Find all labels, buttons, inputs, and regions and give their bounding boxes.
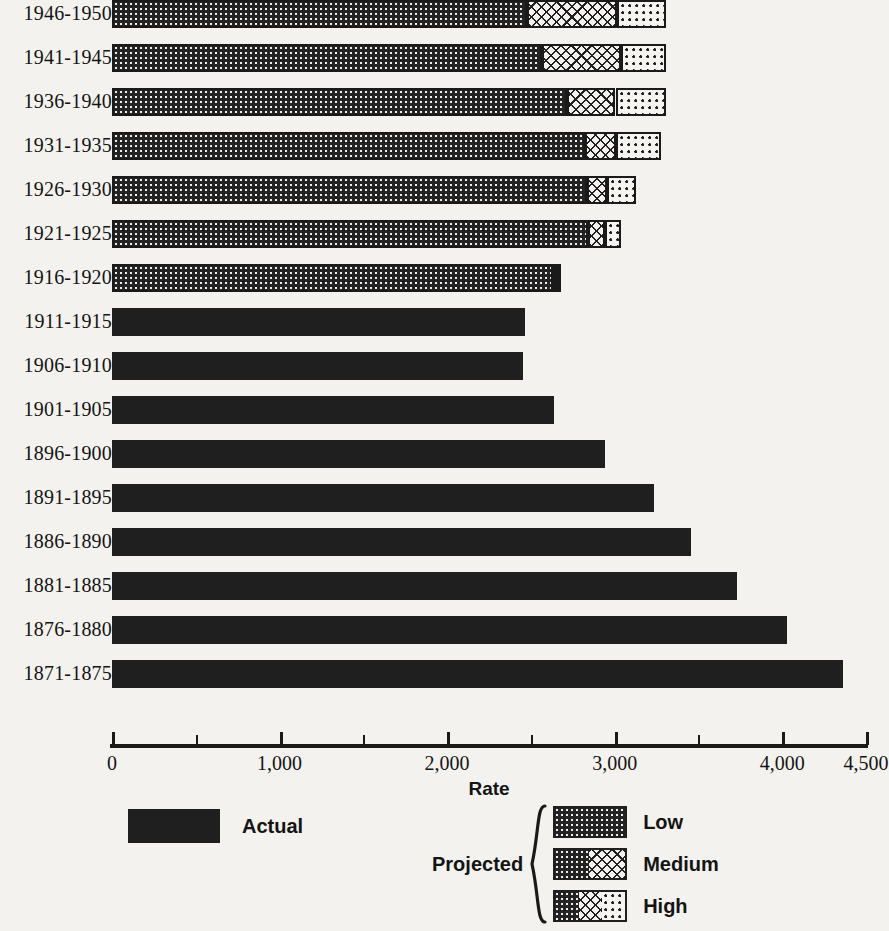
- bar-segment-low: [112, 132, 585, 160]
- bar-segment-actual: [112, 440, 605, 468]
- x-tick-minor: [363, 735, 365, 745]
- bar-segment-high: [605, 220, 620, 248]
- bar-segment-high: [616, 88, 666, 116]
- x-tick-major: [866, 732, 869, 745]
- plot-area: 1946-19501941-19451936-19401931-19351926…: [0, 0, 868, 742]
- x-tick-minor: [698, 735, 700, 745]
- category-label: 1896-1900: [24, 439, 112, 467]
- category-label: 1916-1920: [24, 263, 112, 291]
- bar-track: [112, 572, 737, 600]
- legend-item-low: Low: [553, 806, 719, 838]
- bar-track: [112, 220, 621, 248]
- bar-segment-high: [616, 132, 661, 160]
- legend-swatch-low: [553, 806, 627, 838]
- bar-segment-actual: [112, 528, 691, 556]
- bar-track: [112, 616, 787, 644]
- chart-legend: Actual Projected Low: [0, 800, 868, 931]
- legend-swatch-actual: [128, 809, 220, 843]
- bar-segment-low: [112, 0, 527, 28]
- bar-row: 1891-1895: [0, 484, 868, 512]
- bar-segment-low: [112, 88, 567, 116]
- x-axis-title: Rate: [112, 778, 866, 800]
- x-tick-label: 0: [107, 752, 117, 775]
- x-tick-minor: [196, 735, 198, 745]
- category-label: 1876-1880: [24, 615, 112, 643]
- bar-segment-actual: [112, 396, 554, 424]
- x-tick-major: [447, 732, 450, 745]
- legend-label-actual: Actual: [242, 815, 303, 838]
- bar-track: [112, 44, 666, 72]
- bar-segment-actual: [112, 572, 737, 600]
- bar-segment-medium: [587, 176, 607, 204]
- bar-row: 1931-1935: [0, 132, 868, 160]
- bar-track: [112, 660, 843, 688]
- bar-segment-high: [557, 264, 561, 292]
- bar-row: 1936-1940: [0, 88, 868, 116]
- category-label: 1891-1895: [24, 483, 112, 511]
- bar-row: 1946-1950: [0, 0, 868, 28]
- bar-segment-actual: [112, 660, 843, 688]
- x-tick-major: [112, 732, 115, 745]
- legend-projected-rows: Low Medium High: [553, 806, 719, 922]
- bar-segment-high: [607, 176, 635, 204]
- bar-segment-actual: [112, 308, 525, 336]
- bar-segment-medium: [567, 88, 616, 116]
- category-label: 1921-1925: [24, 219, 112, 247]
- legend-item-high: High: [553, 890, 719, 922]
- bar-track: [112, 264, 560, 292]
- category-label: 1886-1890: [24, 527, 112, 555]
- bar-row: 1916-1920: [0, 264, 868, 292]
- legend-group-projected: Projected Low Medium: [432, 804, 719, 924]
- bar-segment-low: [112, 220, 588, 248]
- bar-row: 1876-1880: [0, 616, 868, 644]
- legend-label-low: Low: [643, 811, 683, 834]
- legend-swatch-medium: [553, 848, 627, 880]
- bar-row: 1871-1875: [0, 660, 868, 688]
- x-tick-label: 4,000: [760, 752, 805, 775]
- x-tick-label: 2,000: [425, 752, 470, 775]
- bar-segment-low: [112, 176, 587, 204]
- bar-segment-high: [617, 0, 666, 28]
- bar-segment-actual: [112, 352, 523, 380]
- bar-track: [112, 440, 605, 468]
- x-tick-major: [280, 732, 283, 745]
- category-label: 1926-1930: [24, 175, 112, 203]
- x-tick-minor: [531, 735, 533, 745]
- bar-row: 1896-1900: [0, 440, 868, 468]
- bar-track: [112, 0, 666, 28]
- bar-segment-high: [621, 44, 666, 72]
- bar-segment-low: [112, 264, 553, 292]
- legend-label-projected: Projected: [432, 853, 523, 876]
- x-tick-label: 3,000: [592, 752, 637, 775]
- bar-segment-medium: [585, 132, 615, 160]
- category-label: 1936-1940: [24, 87, 112, 115]
- bar-segment-medium: [542, 44, 621, 72]
- category-label: 1881-1885: [24, 571, 112, 599]
- bar-segment-actual: [112, 616, 787, 644]
- bar-row: 1926-1930: [0, 176, 868, 204]
- bar-segment-medium: [588, 220, 606, 248]
- bar-track: [112, 88, 666, 116]
- bar-track: [112, 132, 661, 160]
- bar-segment-medium: [527, 0, 617, 28]
- x-tick-label: 1,000: [257, 752, 302, 775]
- bar-segment-low: [112, 44, 542, 72]
- bar-track: [112, 176, 636, 204]
- curly-brace-icon: [529, 804, 547, 924]
- bar-row: 1881-1885: [0, 572, 868, 600]
- category-label: 1946-1950: [24, 0, 112, 27]
- bar-track: [112, 528, 691, 556]
- bar-row: 1941-1945: [0, 44, 868, 72]
- legend-label-medium: Medium: [643, 853, 719, 876]
- x-axis-line: [110, 744, 868, 748]
- category-label: 1906-1910: [24, 351, 112, 379]
- bar-row: 1921-1925: [0, 220, 868, 248]
- legend-item-actual: Actual: [128, 809, 303, 843]
- bar-track: [112, 396, 554, 424]
- x-tick-major: [782, 732, 785, 745]
- bar-segment-actual: [112, 484, 654, 512]
- bar-row: 1901-1905: [0, 396, 868, 424]
- category-label: 1911-1915: [24, 307, 112, 335]
- bar-row: 1906-1910: [0, 352, 868, 380]
